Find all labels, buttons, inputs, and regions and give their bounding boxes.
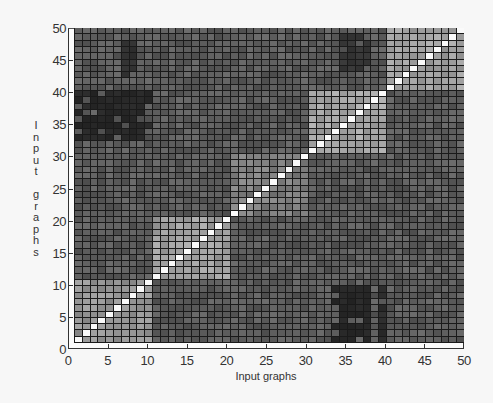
heatmap-cell [83,167,90,172]
heatmap-cell [169,204,176,209]
heatmap-cell [278,135,285,140]
heatmap-cell [161,204,168,209]
heatmap-cell [426,173,433,178]
heatmap-cell [215,34,222,39]
heatmap-cell [137,286,144,291]
heatmap-cell [418,242,425,247]
heatmap-cell [270,280,277,285]
heatmap-cell [317,204,324,209]
heatmap-cell [153,110,160,115]
heatmap-cell [332,116,339,121]
heatmap-cell [317,236,324,241]
heatmap-cell [442,78,449,83]
heatmap-cell [254,255,261,260]
heatmap-cell [301,337,308,342]
heatmap-cell [184,274,191,279]
heatmap-cell [410,160,417,165]
heatmap-cell [387,148,394,153]
heatmap-cell [114,60,121,65]
heatmap-cell [434,249,441,254]
heatmap-cell [379,217,386,222]
heatmap-cell [114,135,121,140]
heatmap-cell [176,148,183,153]
heatmap-cell [169,148,176,153]
heatmap-cell [387,330,394,335]
heatmap-cell [293,91,300,96]
heatmap-cell [387,274,394,279]
heatmap-cell [309,116,316,121]
heatmap-cell [426,72,433,77]
heatmap-cell [91,116,98,121]
heatmap-cell [340,28,347,33]
heatmap-cell [169,211,176,216]
heatmap-cell [457,217,464,222]
heatmap-cell [457,192,464,197]
heatmap-cell [192,312,199,317]
heatmap-cell [262,167,269,172]
heatmap-cell [239,242,246,247]
heatmap-cell [239,330,246,335]
heatmap-cell [145,47,152,52]
heatmap-cell [364,53,371,58]
heatmap-cell [293,129,300,134]
heatmap-cell [223,198,230,203]
heatmap-cell [262,337,269,342]
heatmap-cell [153,324,160,329]
heatmap-cell [379,66,386,71]
heatmap-cell [434,324,441,329]
heatmap-cell [371,249,378,254]
heatmap-cell [309,104,316,109]
heatmap-cell [114,318,121,323]
heatmap-cell [426,249,433,254]
heatmap-cell [176,173,183,178]
heatmap-cell [410,28,417,33]
heatmap-cell [223,154,230,159]
heatmap-cell [145,160,152,165]
heatmap-cell [348,60,355,65]
heatmap-cell [356,236,363,241]
heatmap-cell [215,179,222,184]
heatmap-cell [293,318,300,323]
heatmap-cell [137,110,144,115]
heatmap-cell [184,242,191,247]
heatmap-cell [278,242,285,247]
heatmap-cell [200,28,207,33]
heatmap-cell [215,299,222,304]
heatmap-cell [247,286,254,291]
heatmap-cell [83,242,90,247]
heatmap-cell [200,60,207,65]
heatmap-cell [91,230,98,235]
heatmap-cell [247,242,254,247]
heatmap-cell [239,141,246,146]
heatmap-cell [231,91,238,96]
heatmap-cell [91,167,98,172]
heatmap-cell [371,204,378,209]
heatmap-cell [200,34,207,39]
heatmap-cell [371,60,378,65]
heatmap-cell [293,312,300,317]
heatmap-cell [231,324,238,329]
heatmap-cell [293,223,300,228]
heatmap-cell [75,97,82,102]
heatmap-cell [340,286,347,291]
heatmap-cell [176,255,183,260]
heatmap-cell [208,286,215,291]
heatmap-cell [169,160,176,165]
heatmap-cell [309,211,316,216]
heatmap-cell [286,211,293,216]
heatmap-cell [122,230,129,235]
heatmap-cell [208,312,215,317]
heatmap-cell [340,204,347,209]
heatmap-cell [301,110,308,115]
heatmap-cell [317,160,324,165]
heatmap-cell [371,104,378,109]
heatmap-cell [348,167,355,172]
heatmap-cell [75,160,82,165]
heatmap-cell [169,230,176,235]
heatmap-cell [395,154,402,159]
heatmap-cell [106,116,113,121]
heatmap-cell [426,148,433,153]
heatmap-cell [270,223,277,228]
heatmap-cell [410,85,417,90]
heatmap-cell [403,204,410,209]
